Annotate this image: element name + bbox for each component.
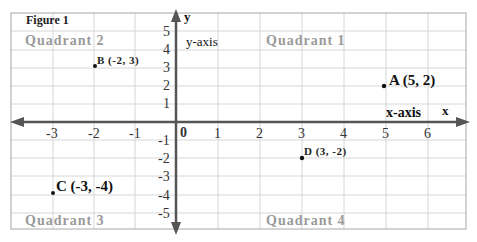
y-tick-label: -3 (158, 170, 170, 184)
x-axis-name: x-axis (386, 106, 421, 120)
y-axis-name: y-axis (186, 35, 218, 48)
x-tick-label: 5 (382, 127, 389, 141)
x-tick-label: -3 (46, 127, 58, 141)
point-a-dot (382, 84, 386, 88)
y-tick-label: 1 (163, 97, 170, 111)
y-tick-label: 4 (163, 43, 170, 57)
x-tick-label: 4 (340, 127, 347, 141)
x-axis-letter: x (442, 104, 449, 117)
quadrant-2-label: Quadrant 2 (25, 34, 105, 48)
point-a-label: A (5, 2) (389, 73, 435, 88)
x-tick-label: -1 (129, 127, 141, 141)
x-axis-left-arrow-icon (10, 117, 24, 127)
y-axis-letter: y (184, 10, 191, 23)
y-tick-label: 2 (163, 79, 170, 93)
point-c-dot (51, 191, 55, 195)
x-tick-label: -2 (88, 127, 100, 141)
coordinate-plane-figure: Figure 1 Quadrant 2 Quadrant 1 Quadrant … (0, 0, 477, 242)
y-tick-label: 5 (163, 25, 170, 39)
quadrant-1-label: Quadrant 1 (266, 34, 346, 48)
y-axis-up-arrow-icon (171, 9, 181, 22)
x-tick-label: 1 (214, 127, 221, 141)
point-c-label: C (-3, -4) (56, 179, 113, 194)
x-tick-label: 3 (298, 127, 305, 141)
point-b-label: B (-2, 3) (97, 55, 139, 66)
figure-title: Figure 1 (26, 14, 69, 26)
y-tick-label: -1 (158, 134, 170, 148)
quadrant-3-label: Quadrant 3 (25, 214, 105, 228)
y-tick-label: -2 (158, 152, 170, 166)
x-tick-label: 6 (424, 127, 431, 141)
x-tick-label: 2 (256, 127, 263, 141)
y-tick-label: -4 (158, 189, 170, 203)
quadrant-4-label: Quadrant 4 (266, 214, 346, 228)
y-tick-label: -5 (158, 207, 170, 221)
origin-label: 0 (180, 126, 187, 140)
point-d-label: D (3, -2) (304, 146, 347, 157)
y-tick-label: 3 (163, 61, 170, 75)
x-axis-right-arrow-icon (456, 117, 470, 127)
